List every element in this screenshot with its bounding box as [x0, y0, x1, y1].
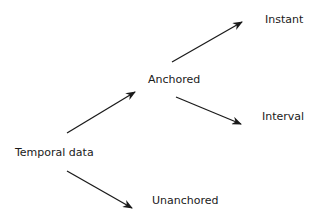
node-anchored: Anchored — [148, 74, 200, 85]
node-instant: Instant — [265, 14, 303, 25]
arrow-anchored-to-interval — [176, 97, 241, 124]
node-unanchored: Unanchored — [152, 195, 219, 206]
node-temporal-data: Temporal data — [15, 147, 94, 158]
arrow-anchored-to-instant — [172, 22, 242, 62]
arrow-temporal-to-unanchored — [67, 171, 132, 208]
arrow-temporal-to-anchored — [67, 92, 135, 133]
temporal-data-taxonomy-diagram: Temporal data Anchored Unanchored Instan… — [0, 0, 319, 223]
node-interval: Interval — [262, 111, 304, 122]
